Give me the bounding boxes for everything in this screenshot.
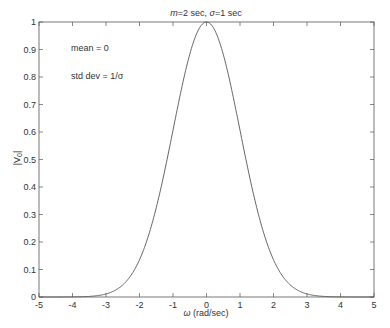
x-tick-label: -3 (102, 300, 110, 310)
x-tick-label: 2 (271, 300, 276, 310)
y-tick-label: 0.7 (23, 100, 36, 110)
y-tick-label: 0 (31, 292, 36, 302)
x-tick-label: 5 (371, 300, 376, 310)
chart-background (0, 0, 390, 328)
y-axis-label-main: |V (12, 157, 22, 165)
y-tick-label: 0.5 (23, 155, 36, 165)
title-m-value: =2 sec, (178, 8, 210, 18)
x-axis-label: ω (rad/sec) (183, 308, 228, 318)
x-tick-label: 1 (237, 300, 242, 310)
y-tick-label: 0.3 (23, 210, 36, 220)
x-tick-label: 3 (304, 300, 309, 310)
y-axis-label: |V0| (12, 151, 23, 166)
x-tick-label: -2 (135, 300, 143, 310)
y-tick-label: 0.9 (23, 45, 36, 55)
y-tick-label: 0.1 (23, 265, 36, 275)
chart-canvas: -5-4-3-2-1012345 00.10.20.30.40.50.60.70… (0, 0, 390, 328)
x-tick-label: -5 (35, 300, 43, 310)
x-tick-label: -1 (169, 300, 177, 310)
y-tick-label: 0.6 (23, 127, 36, 137)
x-tick-label: 4 (338, 300, 343, 310)
title-sigma-value: =1 sec (215, 8, 242, 18)
y-axis-label-end: | (12, 151, 22, 153)
x-tick-label: -4 (68, 300, 76, 310)
y-tick-label: 0.4 (23, 182, 36, 192)
y-tick-label: 0.2 (23, 237, 36, 247)
y-tick-label: 0.8 (23, 72, 36, 82)
y-tick-label: 1 (31, 17, 36, 27)
annotation-mean: mean = 0 (71, 43, 109, 53)
annotation-std-dev: std dev = 1/σ (71, 71, 124, 81)
chart-title: m=2 sec, σ=1 sec (170, 8, 242, 18)
x-axis-units: (rad/sec) (191, 308, 229, 318)
x-axis-omega: ω (183, 308, 190, 318)
